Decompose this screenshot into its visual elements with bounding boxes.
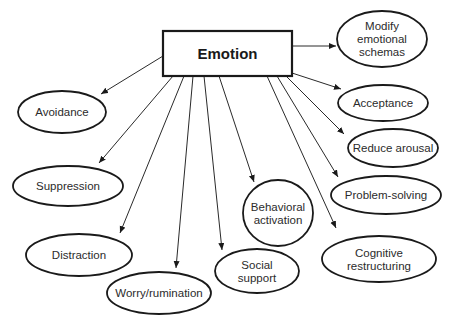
arrow-to-worry-rumination: [176, 76, 193, 268]
arrow-to-behavioral-activation: [219, 76, 254, 182]
social-support-label: support: [238, 272, 277, 284]
arrows-layer: [99, 46, 344, 268]
behavioral-activation-label: activation: [254, 214, 303, 226]
arrow-to-suppression: [99, 76, 173, 163]
node-behavioral-activation: Behavioralactivation: [243, 180, 313, 246]
node-acceptance: Acceptance: [338, 85, 428, 121]
node-reduce-arousal: Reduce arousal: [348, 129, 438, 167]
arrow-to-problem-solving: [277, 76, 338, 177]
reduce-arousal-label: Reduce arousal: [353, 142, 434, 154]
arrow-to-social-support: [204, 76, 222, 250]
modify-emotional-schemas-label: Modify: [365, 20, 399, 32]
arrow-to-distraction: [120, 76, 184, 233]
arrow-to-avoidance: [101, 56, 163, 94]
acceptance-label: Acceptance: [353, 97, 413, 109]
node-distraction: Distraction: [26, 234, 132, 276]
node-avoidance: Avoidance: [18, 91, 106, 133]
worry-rumination-label: Worry/rumination: [115, 287, 202, 299]
problem-solving-label: Problem-solving: [345, 189, 427, 201]
node-modify-emotional-schemas: Modifyemotionalschemas: [337, 11, 427, 67]
node-worry-rumination: Worry/rumination: [107, 272, 211, 314]
cognitive-restructuring-label: Cognitive: [355, 247, 403, 259]
modify-emotional-schemas-label: emotional: [357, 33, 407, 45]
suppression-label: Suppression: [36, 180, 100, 192]
emotion-box: Emotion: [163, 31, 292, 76]
node-problem-solving: Problem-solving: [331, 176, 441, 214]
emotion-label: Emotion: [198, 45, 258, 62]
node-cognitive-restructuring: Cognitiverestructuring: [322, 236, 436, 282]
behavioral-activation-label: Behavioral: [251, 201, 305, 213]
arrow-to-acceptance: [292, 73, 341, 89]
node-social-support: Socialsupport: [215, 249, 299, 293]
modify-emotional-schemas-label: schemas: [359, 46, 405, 58]
emotion-regulation-diagram: ModifyemotionalschemasAcceptanceReduce a…: [0, 0, 459, 334]
node-suppression: Suppression: [13, 166, 123, 206]
avoidance-label: Avoidance: [35, 106, 89, 118]
social-support-label: Social: [241, 259, 272, 271]
cognitive-restructuring-label: restructuring: [347, 260, 411, 272]
distraction-label: Distraction: [52, 249, 106, 261]
